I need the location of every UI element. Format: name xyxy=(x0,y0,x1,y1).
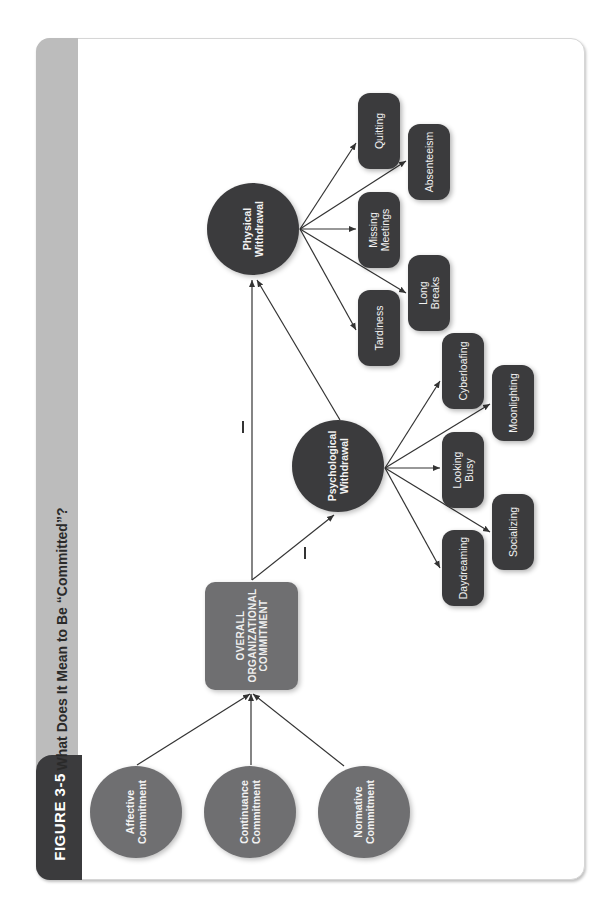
looking-busy-label: Looking Busy xyxy=(442,432,484,508)
long-breaks-label: Long Breaks xyxy=(408,255,450,331)
continuance-commitment-label: Continuance Commitment xyxy=(204,766,296,858)
tardiness-label: Tardiness xyxy=(358,290,400,366)
daydreaming-label: Daydreaming xyxy=(442,530,484,606)
moonlighting-label: Moonlighting xyxy=(492,365,534,441)
cyberloafing-node: Cyberloafing xyxy=(442,333,484,409)
cyberloafing-label: Cyberloafing xyxy=(442,333,484,409)
psychological-withdrawal-node: Psychological Withdrawal xyxy=(292,420,384,512)
long-breaks-node: Long Breaks xyxy=(408,255,450,331)
continuance-commitment-node: Continuance Commitment xyxy=(204,766,296,858)
normative-commitment-label: Normative Commitment xyxy=(318,766,410,858)
quitting-label: Quitting xyxy=(358,93,400,169)
normative-commitment-node: Normative Commitment xyxy=(318,766,410,858)
socializing-node: Socializing xyxy=(492,494,534,570)
affective-commitment-label: Affective Commitment xyxy=(90,766,182,858)
overall-commitment-node: OVERALL ORGANIZATIONAL COMMITMENT xyxy=(205,582,298,690)
socializing-label: Socializing xyxy=(492,494,534,570)
negative-sign-psychological: − xyxy=(304,547,306,559)
negative-sign-physical: − xyxy=(242,421,244,433)
psychological-withdrawal-label: Psychological Withdrawal xyxy=(292,420,384,512)
absenteeism-label: Absenteeism xyxy=(408,124,450,200)
physical-withdrawal-label: Physical Withdrawal xyxy=(207,183,299,275)
overall-commitment-label: OVERALL ORGANIZATIONAL COMMITMENT xyxy=(206,582,299,690)
moonlighting-node: Moonlighting xyxy=(492,365,534,441)
tardiness-node: Tardiness xyxy=(358,290,400,366)
affective-commitment-node: Affective Commitment xyxy=(90,766,182,858)
missing-meetings-node: Missing Meetings xyxy=(358,192,400,268)
looking-busy-node: Looking Busy xyxy=(442,432,484,508)
missing-meetings-label: Missing Meetings xyxy=(358,192,400,268)
quitting-node: Quitting xyxy=(358,93,400,169)
daydreaming-node: Daydreaming xyxy=(442,530,484,606)
physical-withdrawal-node: Physical Withdrawal xyxy=(207,183,299,275)
absenteeism-node: Absenteeism xyxy=(408,124,450,200)
